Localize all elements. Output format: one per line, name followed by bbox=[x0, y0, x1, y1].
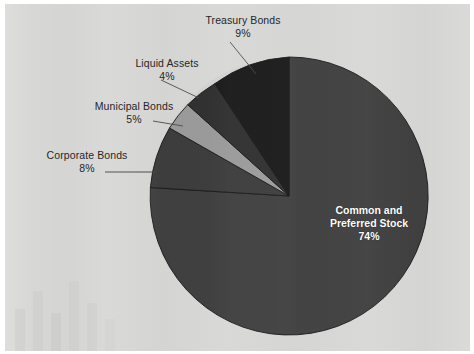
callout-treasury-bonds-percent: 9% bbox=[191, 27, 295, 40]
callout-corporate-bonds-percent: 8% bbox=[32, 162, 142, 175]
pie-chart bbox=[5, 4, 470, 351]
callout-common-and-preferred-stock-percent: 74% bbox=[358, 230, 379, 242]
callout-common-and-preferred-stock-line2: Preferred Stock bbox=[330, 217, 408, 229]
callout-corporate-bonds: Corporate Bonds 8% bbox=[32, 149, 142, 174]
callout-municipal-bonds-percent: 5% bbox=[78, 113, 190, 126]
callout-liquid-assets: Liquid Assets 4% bbox=[120, 57, 214, 82]
callout-treasury-bonds: Treasury Bonds 9% bbox=[191, 14, 295, 39]
callout-corporate-bonds-name: Corporate Bonds bbox=[47, 149, 128, 161]
chart-plate: Treasury Bonds 9% Liquid Assets 4% Munic… bbox=[5, 4, 470, 351]
pie-scan-texture bbox=[5, 4, 470, 351]
callout-municipal-bonds: Municipal Bonds 5% bbox=[78, 100, 190, 125]
callout-common-and-preferred-stock-line1: Common and bbox=[335, 204, 402, 216]
callout-municipal-bonds-name: Municipal Bonds bbox=[95, 100, 174, 112]
callout-liquid-assets-percent: 4% bbox=[120, 70, 214, 83]
leader-line-liquid-assets bbox=[161, 80, 199, 98]
callout-liquid-assets-name: Liquid Assets bbox=[135, 57, 198, 69]
pie-chart-screenshot: Treasury Bonds 9% Liquid Assets 4% Munic… bbox=[0, 0, 474, 354]
callout-common-and-preferred-stock: Common and Preferred Stock 74% bbox=[309, 204, 429, 243]
callout-treasury-bonds-name: Treasury Bonds bbox=[205, 14, 280, 26]
